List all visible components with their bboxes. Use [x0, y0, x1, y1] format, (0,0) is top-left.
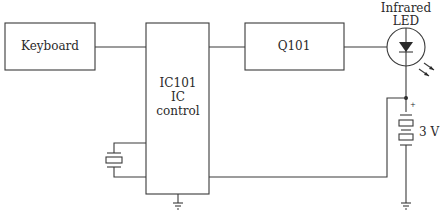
- ic-label-line3: control: [156, 104, 199, 118]
- ic-label-line2: IC: [171, 90, 185, 104]
- crystal-oscillator-icon: [106, 143, 146, 177]
- battery-ic-wire: [209, 98, 406, 177]
- ground-icon: [401, 203, 411, 209]
- ground-icon: [173, 203, 183, 209]
- ic-label-line1: IC101: [160, 76, 197, 90]
- led-label-line2: LED: [393, 14, 419, 28]
- diode-icon: [399, 42, 413, 52]
- battery-plus: +: [410, 101, 416, 109]
- led-label-line1: Infrared: [381, 1, 432, 15]
- ic101-block: IC101 IC control: [146, 23, 209, 194]
- battery-voltage-label: 3 V: [419, 125, 439, 139]
- q101-label: Q101: [278, 39, 311, 53]
- keyboard-label: Keyboard: [21, 39, 79, 53]
- emission-arrows-icon: [419, 63, 434, 76]
- remote-control-block-diagram: Keyboard IC101 IC control Q101 Infrared …: [0, 0, 448, 218]
- infrared-led: Infrared LED: [381, 1, 434, 76]
- keyboard-block: Keyboard: [5, 23, 95, 70]
- q101-block: Q101: [245, 23, 344, 70]
- battery-3v: + 3 V: [399, 101, 439, 145]
